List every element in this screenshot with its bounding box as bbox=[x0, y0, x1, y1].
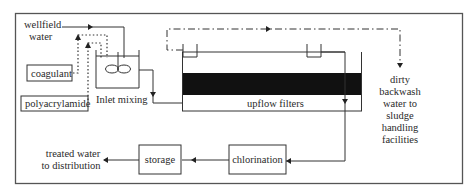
wellfield-label-line1: wellfield bbox=[24, 19, 62, 30]
storage-label: storage bbox=[145, 154, 176, 165]
trough-right bbox=[307, 44, 321, 57]
backwash-flow-line bbox=[167, 26, 403, 68]
wellfield-label-line2: water bbox=[29, 31, 53, 42]
arrow-down-icon bbox=[342, 99, 348, 104]
inlet-mixing-label: Inlet mixing bbox=[96, 94, 148, 105]
arrow-left-icon bbox=[191, 157, 196, 163]
arrow-left-icon bbox=[103, 157, 108, 163]
upflow-filters-label: upflow filters bbox=[247, 98, 304, 109]
arrow-up-icon bbox=[85, 42, 91, 48]
svg-text:dirty: dirty bbox=[390, 74, 411, 85]
arrow-right-icon bbox=[88, 24, 93, 30]
wellfield-flow-line bbox=[62, 24, 124, 58]
polyacrylamide-dosing-line bbox=[85, 42, 101, 100]
process-flow-diagram: wellfield water coagulant polyacrylamide… bbox=[0, 0, 475, 192]
backwash-destination-label: dirty backwash water to sludge handling … bbox=[379, 74, 421, 145]
svg-text:to distribution: to distribution bbox=[41, 160, 101, 171]
chlorination-to-storage-line bbox=[182, 157, 229, 163]
storage-to-distribution-line bbox=[103, 157, 139, 163]
svg-text:facilities: facilities bbox=[382, 134, 418, 145]
coagulant-dosing-line bbox=[73, 34, 107, 73]
trough-left bbox=[183, 44, 197, 57]
wellfield-water-label: wellfield water bbox=[24, 19, 62, 42]
inlet-mixing-tank bbox=[96, 50, 139, 88]
svg-text:sludge: sludge bbox=[386, 110, 414, 121]
chlorination-label: chlorination bbox=[232, 154, 283, 165]
distribution-label: treated water to distribution bbox=[41, 148, 101, 171]
arrow-left-icon bbox=[286, 158, 291, 164]
svg-text:water to: water to bbox=[383, 98, 417, 109]
svg-text:treated water: treated water bbox=[46, 148, 101, 159]
arrow-down-icon bbox=[397, 63, 403, 68]
filter-media bbox=[183, 73, 361, 95]
arrow-up-icon bbox=[75, 34, 81, 40]
svg-text:backwash: backwash bbox=[379, 86, 421, 97]
polyacrylamide-label: polyacrylamide bbox=[25, 98, 91, 109]
svg-text:handling: handling bbox=[382, 122, 419, 133]
arrow-down-icon bbox=[150, 92, 156, 97]
arrow-right-icon bbox=[266, 26, 271, 32]
coagulant-label: coagulant bbox=[31, 68, 72, 79]
